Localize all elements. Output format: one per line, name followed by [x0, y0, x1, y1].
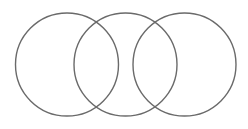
venn-diagram — [0, 0, 248, 129]
circle-middle — [74, 13, 177, 116]
circle-left — [16, 13, 119, 116]
circle-right — [133, 13, 236, 116]
